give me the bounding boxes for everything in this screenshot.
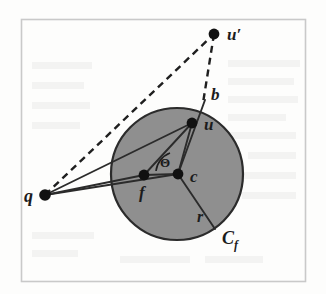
vertex-u bbox=[187, 118, 198, 129]
label-u-prime: u′ bbox=[227, 25, 241, 44]
label-c: c bbox=[190, 167, 198, 186]
label-theta: Θ bbox=[160, 155, 170, 170]
label-b: b bbox=[211, 85, 220, 104]
geometry-diagram: u′ b u c f q r Θ C f bbox=[0, 0, 326, 294]
figure-container: u′ b u c f q r Θ C f bbox=[0, 0, 326, 294]
label-r: r bbox=[197, 208, 204, 225]
vertex-f bbox=[139, 170, 150, 181]
label-q: q bbox=[24, 186, 33, 206]
vertex-q bbox=[39, 189, 51, 201]
label-u: u bbox=[204, 115, 213, 134]
vertex-u-prime bbox=[209, 29, 220, 40]
vertex-c bbox=[173, 169, 184, 180]
